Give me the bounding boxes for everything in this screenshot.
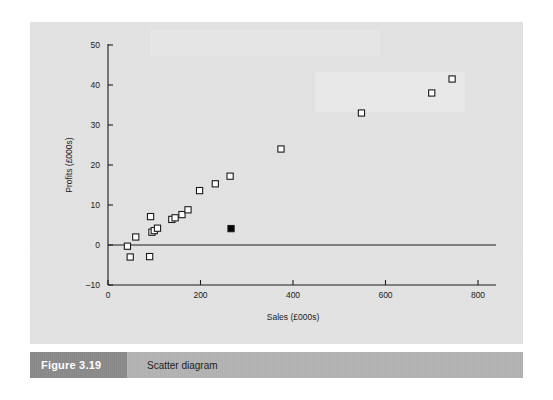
data-point (154, 225, 160, 231)
data-point (449, 76, 455, 82)
figure-number-label: Figure 3.19 (30, 352, 127, 378)
x-axis-tick-label: 400 (286, 290, 300, 300)
y-axis-title: Profits (£000s) (64, 137, 74, 192)
data-point (133, 234, 139, 240)
scatter-chart: 0200400600800–1001020304050Sales (£000s)… (30, 22, 523, 344)
data-point (196, 188, 202, 194)
page-root: 0200400600800–1001020304050Sales (£000s)… (0, 0, 553, 400)
figure-title-label: Scatter diagram (127, 352, 523, 378)
data-point (179, 212, 185, 218)
x-axis-tick-label: 0 (106, 290, 111, 300)
x-axis-tick-label: 800 (471, 290, 485, 300)
y-axis-tick-label: 10 (91, 200, 101, 210)
data-point (127, 254, 133, 260)
x-axis-tick-label: 200 (193, 290, 207, 300)
x-axis-tick-label: 600 (378, 290, 392, 300)
data-point (172, 215, 178, 221)
data-point (124, 243, 130, 249)
series-highlighted-branch (228, 226, 234, 232)
data-point (212, 181, 218, 187)
y-axis-tick-label: 50 (91, 40, 101, 50)
data-point-highlighted (228, 226, 234, 232)
data-point (429, 90, 435, 96)
y-axis-tick-label: 40 (91, 80, 101, 90)
y-axis-tick-label: 30 (91, 120, 101, 130)
figure-caption-bar: Figure 3.19 Scatter diagram (30, 352, 523, 378)
figure-panel: 0200400600800–1001020304050Sales (£000s)… (30, 22, 523, 344)
data-point (278, 146, 284, 152)
data-point (227, 173, 233, 179)
y-axis-tick-label: 20 (91, 160, 101, 170)
data-point (185, 207, 191, 213)
data-point (358, 110, 364, 116)
data-point (147, 214, 153, 220)
x-axis-title: Sales (£000s) (267, 312, 320, 322)
series-branches (124, 76, 455, 260)
y-axis-tick-label: –10 (86, 280, 100, 290)
y-axis-tick-label: 0 (95, 240, 100, 250)
data-point (147, 254, 153, 260)
